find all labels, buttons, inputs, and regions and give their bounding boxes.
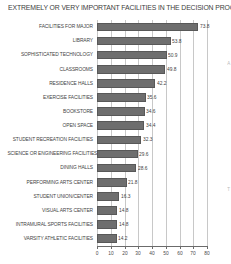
category-label: STUDENT RECREATION FACILITIES [7,136,93,142]
bar-row: VARSITY ATHLETIC FACILITIES14.2 [0,232,231,246]
bar-value-label: 42.2 [157,80,166,86]
category-label: OPEN SPACE [7,122,93,128]
category-label: STUDENT UNION/CENTER [7,193,93,199]
tick-mark [193,246,194,249]
bar [97,192,119,201]
bar-row: RESIDENCE HALLS42.2 [0,77,231,91]
bar-row: VISUAL ARTS CENTER14.8 [0,204,231,218]
category-label: RESIDENCE HALLS [7,80,93,86]
bar [97,79,155,88]
x-tick-label: 10 [104,250,117,256]
bar [97,65,165,74]
bar [97,150,138,159]
category-label: VARSITY ATHLETIC FACILITIES [7,235,93,241]
x-tick-label: 60 [173,250,186,256]
bar [97,51,167,60]
category-label: SCIENCE OR ENGINEERING FACILITIES [7,150,93,156]
tick-mark [166,246,167,249]
bar-row: INTRAMURAL SPORTS FACILITIES14.8 [0,218,231,232]
category-label: FACILITIES FOR MAJOR [7,23,93,29]
bar-value-label: 32.3 [143,136,152,142]
category-label: LIBRARY [7,37,93,43]
bar-row: FACILITIES FOR MAJOR73.8 [0,20,231,34]
category-label: SOPHISTICATED TECHNOLOGY [7,51,93,57]
bar-row: LIBRARY53.8 [0,34,231,48]
category-label: INTRAMURAL SPORTS FACILITIES [7,221,93,227]
bar-value-label: 29.6 [139,151,148,157]
bar-value-label: 16.3 [121,193,130,199]
bar-row: SOPHISTICATED TECHNOLOGY50.9 [0,48,231,62]
category-label: EXERCISE FACILITIES [7,94,93,100]
bar-row: DINING HALLS28.6 [0,161,231,175]
bar [97,37,171,46]
tick-mark [111,246,112,249]
bar [97,234,117,243]
bar-row: STUDENT UNION/CENTER16.3 [0,190,231,204]
bar [97,23,198,32]
bar-row: STUDENT RECREATION FACILITIES32.3 [0,133,231,147]
bar-value-label: 73.8 [200,23,209,29]
bar-value-label: 34.6 [146,108,155,114]
bar-value-label: 14.8 [119,207,128,213]
bar-value-label: 28.6 [138,165,147,171]
tick-mark [125,246,126,249]
tick-mark [138,246,139,249]
tick-mark [207,246,208,249]
bar-value-label: 49.8 [167,66,176,72]
bar-row: SCIENCE OR ENGINEERING FACILITIES29.6 [0,147,231,161]
x-tick-label: 50 [159,250,172,256]
x-tick-label: 0 [91,250,104,256]
bar-value-label: 53.8 [172,38,181,44]
bar [97,164,136,173]
x-tick-label: 20 [118,250,131,256]
x-tick-label: 30 [132,250,145,256]
bar-row: BOOKSTORE34.6 [0,105,231,119]
tick-mark [152,246,153,249]
tick-mark [180,246,181,249]
bar-value-label: 21.8 [128,179,137,185]
bar [97,178,127,187]
x-tick-label: 70 [187,250,200,256]
bar-row: EXERCISE FACILITIES35.6 [0,91,231,105]
clipped-edge-mark: T [227,186,230,192]
bar [97,220,117,229]
bar-value-label: 35.6 [147,94,156,100]
tick-mark [97,246,98,249]
bar [97,107,145,116]
bar-value-label: 14.8 [119,221,128,227]
clipped-edge-mark: A [227,60,230,66]
bar-value-label: 50.9 [168,52,177,58]
category-label: PERFORMING ARTS CENTER [7,179,93,185]
bar-row: PERFORMING ARTS CENTER21.8 [0,175,231,189]
bar-chart: EXTREMELY OR VERY IMPORTANT FACILITIES I… [0,0,231,264]
bar [97,136,141,145]
bar [97,121,144,130]
category-label: CLASSROOMS [7,66,93,72]
bar [97,206,117,215]
category-label: VISUAL ARTS CENTER [7,207,93,213]
x-tick-label: 40 [146,250,159,256]
x-tick-label: 80 [201,250,214,256]
bar-value-label: 34.4 [146,122,155,128]
bar-row: CLASSROOMS49.8 [0,62,231,76]
category-label: DINING HALLS [7,164,93,170]
category-label: BOOKSTORE [7,108,93,114]
bar [97,93,146,102]
bar-row: OPEN SPACE34.4 [0,119,231,133]
bar-value-label: 14.2 [118,235,127,241]
chart-title: EXTREMELY OR VERY IMPORTANT FACILITIES I… [8,3,223,12]
